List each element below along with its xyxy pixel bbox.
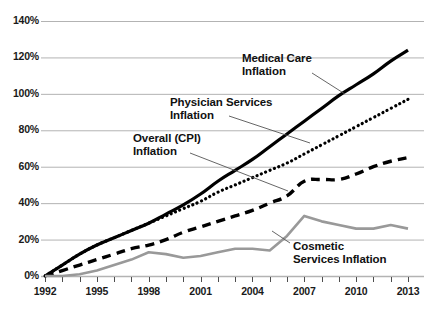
y-axis-label-0pct: 0% bbox=[24, 269, 39, 281]
y-axis-label-140pct: 140% bbox=[13, 14, 39, 26]
annotation-physician-services-line-1: Physician Services bbox=[170, 96, 272, 109]
x-axis-label-2013: 2013 bbox=[382, 285, 431, 297]
annotation-cosmetic-services: CosmeticServices Inflation bbox=[293, 240, 386, 265]
y-axis-label-60pct: 60% bbox=[19, 160, 39, 172]
annotation-physician-services: Physician ServicesInflation bbox=[170, 96, 272, 121]
x-axis-label-2004: 2004 bbox=[226, 285, 278, 297]
x-axis-ticks-group bbox=[46, 277, 409, 282]
x-axis-label-1995: 1995 bbox=[71, 285, 123, 297]
annotation-medical-care: Medical CareInflation bbox=[242, 52, 312, 77]
x-axis-label-2010: 2010 bbox=[330, 285, 382, 297]
x-axis-label-2007: 2007 bbox=[278, 285, 330, 297]
annotation-physician-services-line-2: Inflation bbox=[170, 109, 272, 122]
y-axis-label-20pct: 20% bbox=[19, 233, 39, 245]
y-axis-label-80pct: 80% bbox=[19, 123, 39, 135]
annotation-medical-care-line-1: Medical Care bbox=[242, 52, 312, 65]
y-axis-label-100pct: 100% bbox=[13, 87, 39, 99]
annotation-cosmetic-services-line-1: Cosmetic bbox=[293, 240, 386, 253]
annotation-overall-cpi-line-2: Inflation bbox=[133, 145, 201, 158]
chart-container: 0%20%40%60%80%100%120%140% 1992199519982… bbox=[0, 0, 431, 310]
x-axis-label-1998: 1998 bbox=[123, 285, 175, 297]
annotation-cosmetic-services-line-2: Services Inflation bbox=[293, 253, 386, 266]
y-axis-label-120pct: 120% bbox=[13, 50, 39, 62]
annotation-overall-cpi: Overall (CPI)Inflation bbox=[133, 132, 201, 157]
x-axis-label-2001: 2001 bbox=[175, 285, 227, 297]
leader-line-overall-cpi bbox=[190, 153, 288, 191]
annotation-medical-care-line-2: Inflation bbox=[242, 65, 312, 78]
gridlines-group bbox=[41, 22, 424, 277]
y-axis-label-40pct: 40% bbox=[19, 196, 39, 208]
leader-line-medical-care bbox=[312, 73, 345, 94]
x-axis-label-1992: 1992 bbox=[19, 285, 71, 297]
annotation-overall-cpi-line-1: Overall (CPI) bbox=[133, 132, 201, 145]
